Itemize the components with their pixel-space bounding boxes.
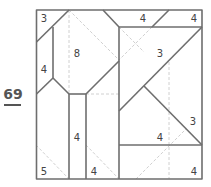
- clue: 4: [191, 13, 197, 24]
- clue: 3: [190, 116, 196, 127]
- clue: 3: [157, 48, 163, 59]
- puzzle-grid: 3 4 4 8 3 4 3 4 4 5 4 4: [0, 0, 211, 187]
- clue: 8: [74, 48, 80, 59]
- clue: 5: [41, 166, 47, 177]
- clue: 4: [157, 132, 163, 143]
- clue: 4: [140, 13, 146, 24]
- clue: 4: [74, 132, 80, 143]
- clue: 4: [91, 166, 97, 177]
- region-borders: [37, 10, 203, 179]
- clue: 4: [191, 166, 197, 177]
- dashed-guides: [36, 10, 186, 179]
- clue: 3: [41, 13, 47, 24]
- clue: 4: [41, 64, 47, 75]
